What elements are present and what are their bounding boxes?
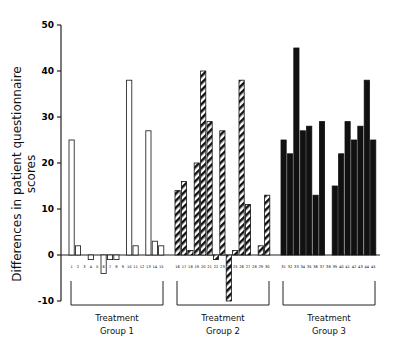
patient-label: 26 <box>239 265 244 269</box>
patient-label: 36 <box>313 265 318 269</box>
bar <box>175 191 180 255</box>
patient-label: 25 <box>233 265 238 269</box>
patient-label: 14 <box>153 265 158 269</box>
bar <box>207 122 212 255</box>
bar <box>245 204 250 255</box>
bar <box>345 122 350 255</box>
bar <box>133 246 138 255</box>
bar <box>69 140 74 255</box>
bar-chart: 50403020100-10 1234567891011121314151617… <box>0 0 396 359</box>
bar <box>201 71 206 255</box>
y-tick-label: 10 <box>41 204 54 214</box>
patient-label: 19 <box>195 265 200 269</box>
group-bracket <box>177 281 269 305</box>
patient-label: 38 <box>326 265 331 269</box>
patient-label: 33 <box>294 265 299 269</box>
group-label: TreatmentGroup 3 <box>284 312 374 338</box>
patient-label: 4 <box>90 265 93 269</box>
patient-label: 23 <box>220 265 225 269</box>
y-tick-label: -10 <box>38 296 54 306</box>
patient-label: 43 <box>358 265 363 269</box>
bar <box>159 246 164 255</box>
patient-label: 29 <box>259 265 264 269</box>
bar <box>351 140 356 255</box>
patient-label: 16 <box>175 265 180 269</box>
bar <box>213 255 218 260</box>
bar <box>364 80 369 255</box>
patient-label: 20 <box>201 265 206 269</box>
patient-label: 37 <box>320 265 325 269</box>
bar <box>287 154 292 255</box>
bars: 1234567891011121314151617181920212223242… <box>69 48 376 301</box>
y-tick-label: 0 <box>48 250 54 260</box>
bar <box>339 154 344 255</box>
bar <box>371 140 376 255</box>
bar <box>146 131 151 255</box>
patient-label: 2 <box>77 265 79 269</box>
bar <box>181 181 186 255</box>
patient-label: 12 <box>140 265 145 269</box>
bar <box>75 246 80 255</box>
bar <box>88 255 93 260</box>
bar <box>294 48 299 255</box>
patient-label: 28 <box>252 265 257 269</box>
patient-label: 44 <box>365 265 370 269</box>
patient-label: 7 <box>109 265 111 269</box>
bar <box>265 195 270 255</box>
bar <box>226 255 231 301</box>
bar <box>188 250 193 255</box>
patient-label: 41 <box>345 265 350 269</box>
bar <box>127 80 132 255</box>
bar <box>300 131 305 255</box>
patient-label: 45 <box>371 265 376 269</box>
group-bracket <box>283 281 375 305</box>
bar <box>307 126 312 255</box>
y-tick-label: 50 <box>41 20 54 30</box>
patient-label: 31 <box>281 265 286 269</box>
bar <box>194 163 199 255</box>
patient-label: 40 <box>339 265 344 269</box>
patient-label: 9 <box>122 265 125 269</box>
bar <box>152 241 157 255</box>
patient-label: 3 <box>83 265 85 269</box>
patient-label: 32 <box>288 265 293 269</box>
patient-label: 35 <box>307 265 312 269</box>
patient-label: 5 <box>96 265 98 269</box>
patient-label: 22 <box>214 265 219 269</box>
y-tick-label: 20 <box>41 158 54 168</box>
patient-label: 27 <box>246 265 251 269</box>
bar <box>239 80 244 255</box>
group-bracket <box>71 281 163 305</box>
patient-label: 11 <box>133 265 138 269</box>
bar <box>107 255 112 260</box>
group-label: TreatmentGroup 2 <box>178 312 268 338</box>
patient-label: 15 <box>159 265 164 269</box>
patient-label: 8 <box>115 265 118 269</box>
patient-label: 18 <box>188 265 193 269</box>
patient-label: 24 <box>227 265 232 269</box>
y-tick-label: 40 <box>41 66 54 76</box>
patient-label: 34 <box>301 265 306 269</box>
patient-label: 17 <box>182 265 187 269</box>
bar <box>281 140 286 255</box>
patient-label: 13 <box>146 265 151 269</box>
bar <box>358 126 363 255</box>
patient-label: 39 <box>333 265 338 269</box>
patient-label: 1 <box>70 265 72 269</box>
bar <box>313 195 318 255</box>
group-label: TreatmentGroup 1 <box>72 312 162 338</box>
bar <box>233 250 238 255</box>
bar <box>220 131 225 255</box>
bar <box>114 255 119 260</box>
y-tick-label: 30 <box>41 112 54 122</box>
patient-label: 42 <box>352 265 357 269</box>
bar <box>258 246 263 255</box>
patient-label: 21 <box>207 265 212 269</box>
bar <box>319 122 324 255</box>
patient-label: 30 <box>265 265 270 269</box>
bar <box>332 186 337 255</box>
patient-label: 10 <box>127 265 132 269</box>
